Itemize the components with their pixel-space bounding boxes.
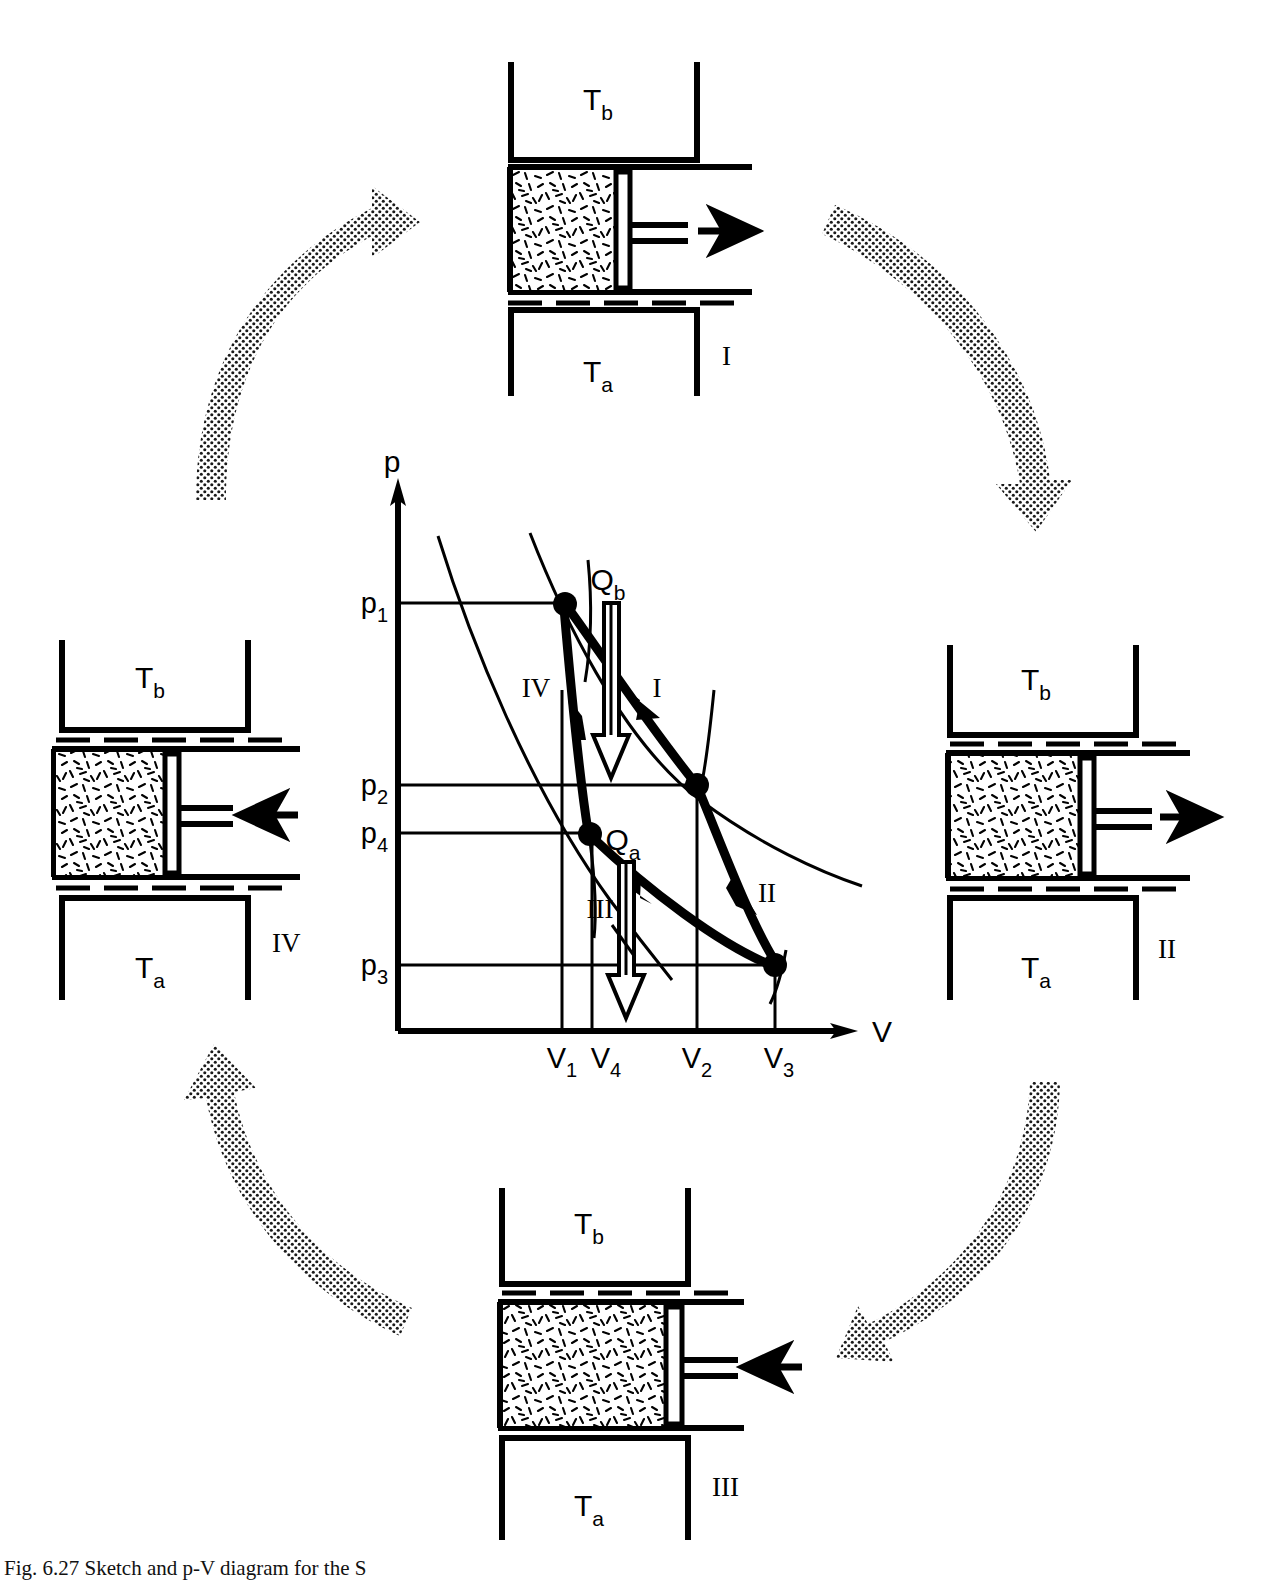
piston-left bbox=[165, 754, 233, 873]
cold-reservoir-label-top: Ta bbox=[583, 355, 613, 396]
volume-tick-label-V2: V2 bbox=[682, 1042, 712, 1081]
state-point-4 bbox=[578, 822, 602, 846]
gas-region-top bbox=[513, 170, 615, 290]
process-label-I: I bbox=[653, 673, 662, 703]
pressure-tick-label-p2: p2 bbox=[361, 769, 388, 808]
cylinder-bottom: Tb Ta III bbox=[498, 1188, 802, 1540]
volume-tick-label-V4: V4 bbox=[591, 1042, 621, 1081]
heat-label-Qb: Qb bbox=[590, 563, 625, 604]
process-path-I bbox=[566, 605, 696, 784]
hot-reservoir-label-top: Tb bbox=[583, 83, 613, 124]
volume-tick-label-V3: V3 bbox=[764, 1042, 794, 1081]
cycle-arrow-bottom-right bbox=[836, 1082, 1060, 1362]
cylinder-left: Tb Ta IV bbox=[52, 640, 301, 1000]
process-label-II: II bbox=[758, 878, 776, 908]
pressure-tick-label-p3: p3 bbox=[361, 949, 388, 988]
gas-region-right bbox=[951, 756, 1079, 876]
stage-label-right: II bbox=[1158, 934, 1176, 964]
cycle-arrow-bottom-left bbox=[184, 1044, 412, 1336]
process-label-III: III bbox=[587, 894, 614, 924]
p-axis-label: p bbox=[384, 445, 401, 478]
state-point-1 bbox=[553, 592, 577, 616]
process-arrowhead-II bbox=[726, 876, 757, 915]
stage-label-bottom: III bbox=[712, 1472, 739, 1502]
state-point-3 bbox=[763, 953, 787, 977]
hot-reservoir-label-bottom: Tb bbox=[574, 1207, 604, 1248]
gas-region-bottom bbox=[503, 1305, 665, 1426]
pressure-tick-label-p4: p4 bbox=[361, 817, 388, 856]
cold-reservoir-label-left: Ta bbox=[135, 951, 165, 992]
stage-label-left: IV bbox=[272, 928, 301, 958]
piston-right bbox=[1080, 758, 1152, 874]
volume-tick-label-V1: V1 bbox=[547, 1042, 577, 1081]
cylinder-right: Tb Ta II bbox=[946, 645, 1216, 1000]
cold-reservoir-label-bottom: Ta bbox=[574, 1489, 604, 1530]
pv-diagram: p V bbox=[361, 445, 892, 1081]
process-label-IV: IV bbox=[522, 673, 551, 703]
hot-reservoir-label-right: Tb bbox=[1021, 663, 1051, 704]
cycle-arrow-top-right bbox=[822, 205, 1072, 532]
cylinder-top: Tb Ta I bbox=[508, 62, 756, 396]
V-axis-label: V bbox=[872, 1015, 892, 1048]
piston-bottom bbox=[666, 1307, 738, 1424]
stage-label-top: I bbox=[722, 341, 731, 371]
cold-reservoir-label-right: Ta bbox=[1021, 951, 1051, 992]
pressure-tick-label-p1: p1 bbox=[361, 587, 388, 626]
state-point-2 bbox=[685, 773, 709, 797]
gas-region-left bbox=[56, 752, 164, 875]
hot-reservoir-label-left: Tb bbox=[135, 661, 165, 702]
piston-top bbox=[616, 172, 688, 288]
figure-caption: Fig. 6.27 Sketch and p-V diagram for the… bbox=[4, 1556, 366, 1581]
